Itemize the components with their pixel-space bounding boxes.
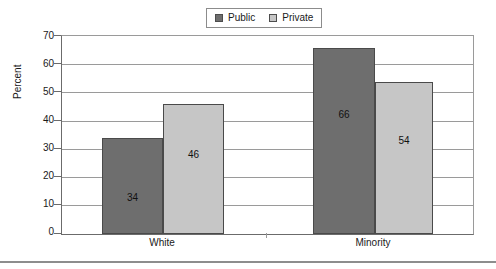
legend-label-private: Private: [282, 13, 313, 23]
x-tick-label-minority: Minority: [333, 238, 413, 248]
y-tick-mark-0: [54, 233, 61, 234]
legend-entry-public: Public: [215, 13, 255, 23]
y-tick-mark-30: [54, 148, 61, 149]
y-tick-mark-40: [54, 120, 61, 121]
y-tick-mark-10: [54, 204, 61, 205]
bar-value-minority-public: 66: [314, 110, 374, 120]
gridline-60: [62, 64, 473, 65]
bar-chart-figure: Public Private Percent 70 60 50 40 30 20…: [0, 0, 496, 269]
y-tick-label-30: 30: [32, 143, 54, 153]
y-tick-label-40: 40: [32, 115, 54, 125]
y-tick-mark-50: [54, 91, 61, 92]
x-tick-label-white: White: [122, 238, 202, 248]
y-tick-label-0: 0: [32, 227, 54, 237]
bar-value-minority-private: 54: [376, 136, 432, 146]
bar-value-white-public: 34: [103, 193, 162, 203]
y-tick-mark-60: [54, 63, 61, 64]
y-axis-title: Percent: [13, 65, 23, 99]
y-tick-label-60: 60: [32, 59, 54, 69]
bar-minority-public[interactable]: 66: [313, 48, 375, 234]
legend-swatch-private-icon: [269, 14, 277, 22]
y-tick-label-70: 70: [32, 31, 54, 41]
x-axis-center-tick: [266, 233, 267, 238]
y-tick-mark-20: [54, 176, 61, 177]
y-tick-label-10: 10: [32, 199, 54, 209]
y-tick-label-20: 20: [32, 171, 54, 181]
bar-minority-private[interactable]: 54: [375, 82, 433, 234]
bar-value-white-private: 46: [164, 150, 223, 160]
bar-white-private[interactable]: 46: [163, 104, 224, 234]
plot-area: 34 46 66 54: [61, 35, 474, 235]
bar-white-public[interactable]: 34: [102, 138, 163, 234]
legend-entry-private: Private: [269, 13, 313, 23]
legend-label-public: Public: [228, 13, 255, 23]
y-tick-mark-70: [54, 35, 61, 36]
y-axis-tick-labels: 70 60 50 40 30 20 10 0: [26, 0, 54, 269]
legend-swatch-public-icon: [215, 14, 223, 22]
chart-legend: Public Private: [206, 8, 322, 28]
footer-divider: [0, 261, 496, 263]
y-tick-label-50: 50: [32, 87, 54, 97]
